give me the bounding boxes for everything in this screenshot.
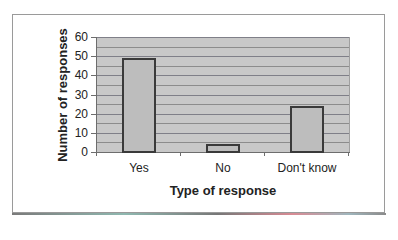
y-tick-mark [91, 133, 96, 134]
y-axis [96, 37, 97, 153]
y-tick-label: 30 [75, 89, 88, 101]
bar-don-t-know [290, 106, 324, 153]
x-tick-mark [180, 152, 181, 156]
y-tick-label: 40 [75, 69, 88, 81]
x-tick-mark [264, 152, 265, 156]
y-axis-title: Number of responses [55, 28, 70, 162]
y-tick-label: 20 [75, 108, 88, 120]
y-tick-mark [91, 37, 96, 38]
x-axis-title: Type of response [170, 183, 277, 198]
gridline [97, 47, 349, 48]
x-category-label: Yes [129, 161, 149, 175]
y-tick-mark [91, 95, 96, 96]
gridline [97, 56, 349, 57]
x-tick-mark [96, 152, 97, 156]
y-tick-label: 10 [75, 127, 88, 139]
y-tick-label: 60 [75, 31, 88, 43]
y-tick-label: 50 [75, 50, 88, 62]
bar-yes [122, 58, 156, 153]
y-tick-mark [91, 114, 96, 115]
y-tick-mark [91, 75, 96, 76]
x-category-label: No [215, 161, 230, 175]
x-tick-mark [348, 152, 349, 156]
x-category-label: Don't know [278, 161, 337, 175]
y-tick-mark [91, 56, 96, 57]
bar-no [206, 144, 240, 153]
gridline [97, 37, 349, 38]
frame-bottom-edge [12, 213, 386, 215]
y-tick-label: 0 [81, 146, 88, 158]
